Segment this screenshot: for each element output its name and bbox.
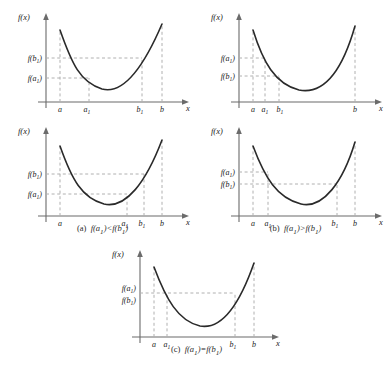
y-value-label-fb1: f(b1)	[221, 180, 236, 190]
panel-mid-right: f(x) x f(a1) f(b1) a a1 b1 b (b) f(a1)>f…	[203, 120, 388, 225]
y-axis-arrow	[236, 13, 242, 20]
y-axis-arrow	[236, 127, 242, 134]
y-axis-label: f(x)	[18, 126, 30, 136]
y-axis-label: f(x)	[112, 249, 124, 259]
caption-panel-b: (b) f(a1)>f(b1)	[203, 223, 388, 236]
caption-panel-a: (a) f(a1)<f(b1)	[10, 223, 195, 236]
x-tick-label-b: b	[160, 105, 164, 114]
y-value-label-fa1: f(a1)	[122, 284, 137, 294]
caption-text-b: f(a1)>f(b1)	[282, 223, 322, 233]
x-tick-label-b1: b1	[137, 105, 144, 115]
y-value-label-fb1: f(b1)	[122, 296, 137, 306]
function-curve	[60, 140, 162, 205]
y-value-label-fa1: f(a1)	[28, 74, 43, 84]
panel-top-right-plot: f(x) x f(a1) f(b1) a a1 b1 b	[203, 6, 388, 111]
panel-mid-right-plot: f(x) x f(a1) f(b1) a a1 b1 b	[203, 120, 388, 225]
x-tick-label-b1: b1	[277, 105, 284, 115]
y-value-label-fb1: f(b1)	[221, 72, 236, 82]
caption-panel-c: (c) f(a1)=f(b1)	[104, 344, 289, 357]
y-axis-label: f(x)	[18, 12, 30, 22]
y-axis-label: f(x)	[211, 12, 223, 22]
function-curve	[60, 24, 162, 90]
caption-index-a: (a)	[77, 223, 86, 233]
x-tick-label-a1: a1	[262, 105, 269, 115]
y-value-label-fb1: f(b1)	[28, 54, 43, 64]
caption-index-c: (c)	[171, 344, 180, 354]
panel-mid-left-plot: f(x) x f(b1) f(a1) a a1 b1 b	[10, 120, 195, 225]
panel-top-right: f(x) x f(a1) f(b1) a a1 b1 b	[203, 6, 388, 111]
y-value-label-fa1: f(a1)	[221, 168, 236, 178]
caption-text-a: f(a1)<f(b1)	[89, 223, 129, 233]
x-tick-label-a1: a1	[84, 105, 91, 115]
x-tick-label-b: b	[353, 105, 357, 114]
x-axis-label: x	[185, 103, 190, 113]
function-curve	[154, 263, 254, 326]
x-tick-label-a: a	[58, 105, 62, 114]
y-axis-arrow	[43, 13, 49, 20]
y-value-label-fa1: f(a1)	[28, 190, 43, 200]
panel-top-left: f(x) x f(b1) f(a1) a a1 b1 b	[10, 6, 195, 111]
x-tick-label-a: a	[251, 105, 255, 114]
y-axis-arrow	[137, 250, 143, 257]
y-axis-label: f(x)	[211, 126, 223, 136]
y-axis-arrow	[43, 127, 49, 134]
y-value-label-fb1: f(b1)	[28, 170, 43, 180]
panel-mid-left: f(x) x f(b1) f(a1) a a1 b1 b (a) f(a1)<f…	[10, 120, 195, 225]
caption-text-c: f(a1)=f(b1)	[183, 344, 223, 354]
x-axis-label: x	[378, 103, 383, 113]
function-curve	[253, 142, 355, 205]
panel-bottom-center: f(x) x f(a1) f(b1) a a1 b1 b (c) f(a1)=f…	[104, 245, 289, 350]
caption-index-b: (b)	[270, 223, 280, 233]
function-curve	[253, 26, 355, 91]
panel-top-left-plot: f(x) x f(b1) f(a1) a a1 b1 b	[10, 6, 195, 111]
y-value-label-fa1: f(a1)	[221, 54, 236, 64]
figure-root: f(x) x f(b1) f(a1) a a1 b1 b f	[0, 0, 392, 373]
panel-bottom-center-plot: f(x) x f(a1) f(b1) a a1 b1 b	[104, 245, 289, 350]
